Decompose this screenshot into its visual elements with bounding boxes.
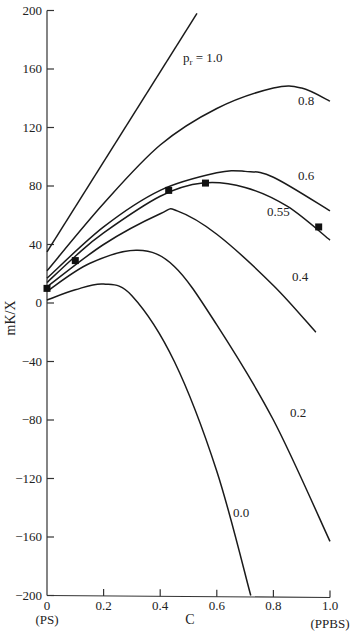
curve-0.4 xyxy=(47,209,316,332)
y-tick-label: 200 xyxy=(23,3,43,18)
y-tick-label: 0 xyxy=(36,295,43,310)
y-tick-label: 80 xyxy=(29,178,42,193)
curves xyxy=(47,13,330,595)
x-tick-label: 0.6 xyxy=(209,598,226,613)
x-tick-label: 0.8 xyxy=(265,598,281,613)
label-0.4: 0.4 xyxy=(292,269,309,284)
x-tick-label: 0.2 xyxy=(95,598,111,613)
y-tick-label: −80 xyxy=(22,412,42,427)
y-tick-label: −40 xyxy=(22,354,42,369)
square-marker xyxy=(165,187,172,194)
y-tick-label: −200 xyxy=(15,588,42,603)
axes xyxy=(47,11,330,598)
x-axis-line xyxy=(47,596,330,598)
y-tick-labels: 20016012080400−40−80−120−160−200 xyxy=(15,3,42,603)
label-0.2: 0.2 xyxy=(290,405,306,420)
y-tick-label: 160 xyxy=(23,61,43,76)
x-tick-label: 0.4 xyxy=(152,598,169,613)
label-0.8: 0.8 xyxy=(298,93,314,108)
curve-0.6 xyxy=(47,171,330,278)
label-0.6: 0.6 xyxy=(298,168,315,183)
square-marker xyxy=(315,223,322,230)
label-pr-1.0: pr = 1.0 xyxy=(183,50,223,67)
y-tick-label: 40 xyxy=(29,237,42,252)
x-tick-label: 0 xyxy=(44,598,51,613)
square-marker xyxy=(72,257,79,264)
x-left-end-label: (PS) xyxy=(35,612,58,627)
x-right-end-label: (PPBS) xyxy=(310,616,349,631)
x-tick-labels: 00.20.40.60.81.0 xyxy=(44,598,338,613)
square-marker xyxy=(44,285,51,292)
label-0.0: 0.0 xyxy=(233,505,249,520)
x-tick-label: 1.0 xyxy=(322,598,338,613)
label-0.55: 0.55 xyxy=(267,204,290,219)
curve-0.55 xyxy=(47,183,330,283)
curve-1.0 xyxy=(47,13,197,251)
x-axis-label: C xyxy=(185,612,194,627)
y-tick-label: 120 xyxy=(23,120,43,135)
y-tick-label: −120 xyxy=(15,471,42,486)
chart: 20016012080400−40−80−120−160−200 00.20.4… xyxy=(0,0,358,631)
curve-0.2 xyxy=(47,250,330,541)
y-tick-label: −160 xyxy=(15,529,42,544)
square-marker xyxy=(202,180,209,187)
y-axis-label: mK/X xyxy=(3,301,18,336)
